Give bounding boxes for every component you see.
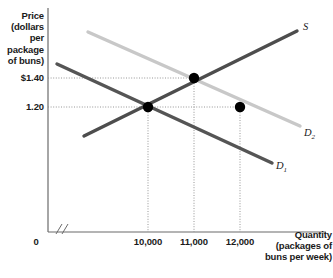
data-point-new-equilibrium bbox=[189, 73, 199, 83]
data-point-initial-equilibrium bbox=[143, 102, 153, 112]
curve-label-demand-1: D1 bbox=[276, 160, 287, 174]
origin-label: 0 bbox=[26, 236, 46, 247]
curve-label-demand-2-sub: 2 bbox=[312, 133, 316, 141]
curve-label-supply: S bbox=[303, 21, 308, 32]
y-tick-label-140: $1.40 bbox=[0, 72, 44, 83]
curve-label-demand-2-base: D bbox=[304, 127, 312, 138]
y-tick-label-120: 1.20 bbox=[0, 101, 44, 112]
x-tick-label-12000: 12,000 bbox=[217, 236, 263, 247]
x-tick-label-10000: 10,000 bbox=[125, 236, 171, 247]
x-axis-title: Quantity (packages of buns per week) bbox=[258, 229, 332, 263]
curve-label-supply-text: S bbox=[303, 21, 308, 32]
data-point-quantity-demanded bbox=[235, 102, 245, 112]
x-tick-label-11000: 11,000 bbox=[171, 236, 217, 247]
curve-supply bbox=[84, 31, 297, 136]
curve-label-demand-2: D2 bbox=[304, 127, 315, 141]
curve-demand-1 bbox=[57, 64, 272, 163]
y-axis-title: Price (dollars per package of buns) bbox=[2, 10, 44, 66]
curve-label-demand-1-base: D bbox=[276, 160, 284, 171]
curve-label-demand-1-sub: 1 bbox=[284, 166, 288, 174]
supply-demand-chart: Price (dollars per package of buns) $1.4… bbox=[0, 0, 333, 278]
